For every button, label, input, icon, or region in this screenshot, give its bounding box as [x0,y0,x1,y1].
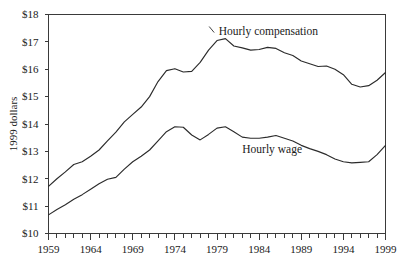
x-axis-tick-label: 1969 [122,243,145,255]
x-axis-tick-label: 1994 [332,243,355,255]
x-axis-tick-label: 1964 [80,243,103,255]
y-axis-tick-label: $12 [22,173,39,185]
line-chart: 1999 dollars $10$11$12$13$14$15$16$17$18… [0,0,406,262]
chart-background [0,0,406,262]
y-axis-tick-label: $13 [22,145,39,157]
chart-container: 1999 dollars $10$11$12$13$14$15$16$17$18… [0,0,406,262]
y-axis-tick-label: $15 [22,90,39,102]
x-axis-tick-label: 1989 [290,243,313,255]
x-axis-tick-labels: 195919641969197419791984198919941999 [38,243,398,255]
series-label: Hourly compensation [219,25,319,38]
y-axis-tick-label: $16 [22,63,39,75]
y-axis-tick-labels: $10$11$12$13$14$15$16$17$18 [22,8,39,239]
x-axis-tick-label: 1974 [164,243,187,255]
y-axis-tick-label: $11 [22,200,38,212]
y-axis-title: 1999 dollars [7,97,19,152]
x-axis-tick-label: 1984 [248,243,271,255]
x-axis-tick-label: 1999 [375,243,398,255]
y-axis-tick-label: $17 [22,36,39,48]
y-axis-tick-label: $14 [22,118,39,130]
x-axis-tick-label: 1979 [206,243,229,255]
y-axis-tick-label: $18 [22,8,39,20]
y-axis-title-text: 1999 dollars [7,97,19,152]
y-axis-tick-label: $10 [22,227,39,239]
series-label: Hourly wage [242,143,302,156]
x-axis-tick-label: 1959 [38,243,61,255]
